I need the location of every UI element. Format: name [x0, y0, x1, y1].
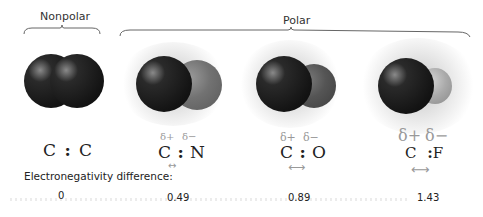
atom-symbol-right: N	[190, 142, 205, 162]
carbon-atom	[256, 56, 312, 112]
electronegativity-label: Electronegativity difference:	[24, 170, 173, 182]
atom-symbol-left: C	[43, 140, 56, 160]
molecule-cc	[24, 52, 104, 112]
molecule-cn	[124, 46, 224, 124]
en-difference-value: 0.49	[167, 192, 189, 203]
nonpolar-brace	[22, 24, 104, 36]
molecule-co	[246, 46, 336, 124]
bond-symbol: :	[177, 142, 183, 162]
carbon-atom	[50, 54, 104, 108]
atom-symbol-right: C	[79, 140, 92, 160]
nonpolar-label: Nonpolar	[40, 10, 90, 23]
en-difference-value: 0	[58, 190, 64, 201]
carbon-atom	[136, 56, 192, 112]
atom-symbol-left: C	[158, 142, 171, 162]
atom-symbol-right: F	[433, 144, 443, 162]
scan-noise	[10, 198, 410, 201]
carbon-atom	[378, 58, 434, 114]
en-difference-value: 1.43	[417, 192, 439, 203]
delta-minus: δ−	[425, 126, 448, 145]
bond-symbol: :	[64, 140, 70, 160]
formula-cf: C :F	[405, 144, 443, 162]
molecule-cf	[368, 44, 468, 128]
atom-symbol-right: O	[312, 142, 326, 162]
dipole-arrow-icon: ⟷	[288, 160, 305, 174]
polar-brace	[118, 26, 474, 38]
bond-symbol: :	[299, 142, 305, 162]
formula-cc: C : C	[43, 140, 92, 160]
dipole-arrow-icon: ⟷	[411, 162, 430, 177]
formula-cn: C : N	[158, 142, 205, 162]
delta-minus: δ−	[182, 131, 196, 142]
atom-symbol-left: C	[405, 144, 416, 162]
en-difference-value: 0.89	[288, 192, 310, 203]
atom-symbol-left: C	[280, 142, 293, 162]
delta-plus: δ+	[160, 131, 174, 142]
formula-co: C : O	[280, 142, 326, 162]
delta-plus: δ+	[398, 126, 421, 145]
